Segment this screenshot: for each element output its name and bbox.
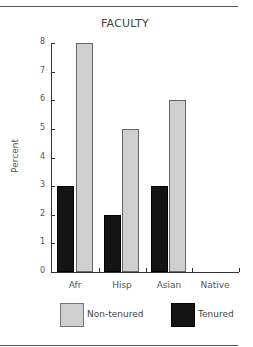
- top-rule: [0, 6, 238, 7]
- y-tick: [51, 272, 55, 273]
- y-tick: [51, 43, 55, 44]
- y-tick-label: 6: [33, 94, 45, 103]
- x-tick-label-asian: Asian: [146, 280, 192, 290]
- bar-non-tenured-afr: [76, 43, 93, 272]
- bar-tenured-asian: [151, 186, 168, 272]
- x-tick: [99, 268, 100, 272]
- y-tick: [51, 158, 55, 159]
- y-tick: [51, 129, 55, 130]
- y-tick-label: 2: [33, 209, 45, 218]
- bar-non-tenured-asian: [169, 100, 186, 272]
- y-tick: [51, 243, 55, 244]
- x-tick: [239, 268, 240, 272]
- bottom-rule: [0, 345, 238, 346]
- x-tick-label-native: Native: [192, 280, 238, 290]
- y-tick: [51, 186, 55, 187]
- y-axis-label: Percent: [10, 128, 20, 184]
- legend-label-tenured: Tenured: [198, 309, 234, 319]
- y-tick-label: 5: [33, 123, 45, 132]
- y-tick-label: 7: [33, 66, 45, 75]
- bar-tenured-afr: [57, 186, 74, 272]
- x-axis: [51, 272, 239, 273]
- x-tick-label-afr: Afr: [52, 280, 98, 290]
- y-tick-label: 8: [33, 37, 45, 46]
- legend-swatch-non-tenured: [60, 303, 84, 327]
- y-tick-label: 1: [33, 237, 45, 246]
- legend-swatch-tenured: [171, 303, 195, 327]
- legend-label-non-tenured: Non-tenured: [87, 309, 143, 319]
- y-tick-label: 4: [33, 152, 45, 161]
- y-tick: [51, 215, 55, 216]
- x-tick: [146, 268, 147, 272]
- chart-title: FACULTY: [0, 17, 250, 30]
- bar-non-tenured-hisp: [122, 129, 139, 272]
- y-tick-label: 0: [33, 266, 45, 275]
- bar-tenured-hisp: [104, 215, 121, 272]
- y-tick: [51, 72, 55, 73]
- x-tick: [192, 268, 193, 272]
- y-tick-label: 3: [33, 180, 45, 189]
- y-tick: [51, 100, 55, 101]
- x-tick-label-hisp: Hisp: [99, 280, 145, 290]
